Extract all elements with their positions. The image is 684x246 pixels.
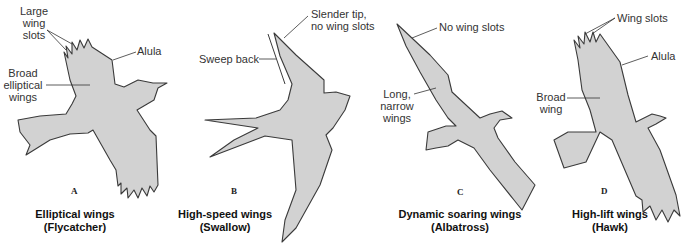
caption-species: (Albatross) xyxy=(395,221,525,234)
panel-letter-d: D xyxy=(601,186,608,196)
caption-title: High-speed wings xyxy=(165,208,285,221)
label-slender-tip: Slender tip, no wing slots xyxy=(311,8,375,32)
label-line: Long, xyxy=(380,88,414,100)
panel-letter-a: A xyxy=(71,186,78,196)
label-line: Broad xyxy=(534,91,568,103)
label-large-wing-slots: Large wing slots xyxy=(18,5,50,41)
label-wing-slots: Wing slots xyxy=(617,12,668,24)
label-line: no wing slots xyxy=(311,20,375,32)
caption-c: Dynamic soaring wings (Albatross) xyxy=(395,208,525,234)
label-broad-wing: Broad wing xyxy=(534,91,568,115)
label-line: wing xyxy=(18,17,50,29)
label-line: narrow xyxy=(380,100,414,112)
caption-a: Elliptical wings (Flycatcher) xyxy=(20,208,130,234)
label-alula-a: Alula xyxy=(137,45,161,57)
caption-species: (Flycatcher) xyxy=(20,221,130,234)
label-long-narrow-wings: Long, narrow wings xyxy=(380,88,414,124)
label-broad-elliptical-wings: Broad elliptical wings xyxy=(0,67,46,103)
label-line: elliptical xyxy=(0,79,46,91)
caption-title: High-lift wings xyxy=(560,208,660,221)
flycatcher-silhouette xyxy=(18,39,167,198)
label-line: Broad xyxy=(0,67,46,79)
caption-species: (Swallow) xyxy=(165,221,285,234)
panel-letter-c: C xyxy=(457,187,464,197)
label-sweep-back: Sweep back xyxy=(199,53,259,65)
caption-species: (Hawk) xyxy=(560,221,660,234)
albatross-silhouette xyxy=(397,24,535,210)
caption-title: Dynamic soaring wings xyxy=(395,208,525,221)
label-line: slots xyxy=(18,29,50,41)
caption-title: Elliptical wings xyxy=(20,208,130,221)
label-line: wings xyxy=(0,91,46,103)
label-line: wing xyxy=(534,103,568,115)
caption-b: High-speed wings (Swallow) xyxy=(165,208,285,234)
caption-d: High-lift wings (Hawk) xyxy=(560,208,660,234)
label-alula-d: Alula xyxy=(651,50,675,62)
label-line: Large xyxy=(18,5,50,17)
label-line: wings xyxy=(380,112,414,124)
label-no-wing-slots: No wing slots xyxy=(439,21,504,33)
panel-letter-b: B xyxy=(231,186,237,196)
label-line: Slender tip, xyxy=(311,8,375,20)
